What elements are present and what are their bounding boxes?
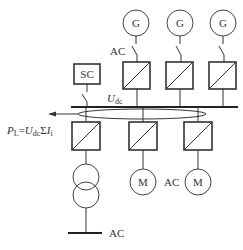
arrow-head-icon [48, 112, 56, 117]
generator-label: G [176, 17, 184, 29]
sc-label: SC [80, 68, 93, 80]
generator-label: G [132, 17, 140, 29]
udc-label: Udc [107, 92, 123, 106]
converter-gen-2 [166, 62, 193, 107]
motor-label: M [138, 176, 148, 188]
generator-3: G [210, 10, 236, 36]
transformer [73, 164, 99, 233]
converter-grid [72, 107, 100, 164]
generator-2: G [167, 10, 193, 36]
power-equation: PL=UdcΣIi [6, 124, 53, 138]
motor-1: M [130, 169, 156, 195]
dc-bus-diagram: G G G AC SC [0, 0, 243, 250]
supercapacitor: SC [74, 64, 100, 107]
ac-label-generator: AC [110, 45, 125, 57]
motor-label: M [193, 176, 203, 188]
motor-2: M [185, 169, 211, 195]
ac-label-grid: AC [109, 227, 124, 239]
generator-1: G [123, 10, 149, 36]
converter-motor-2 [184, 107, 212, 169]
generator-label: G [219, 17, 227, 29]
converter-gen-1 [123, 62, 150, 107]
ac-label-motor: AC [164, 176, 179, 188]
converter-gen-3 [209, 62, 236, 107]
generator-switches [132, 36, 224, 62]
current-loop [78, 109, 206, 119]
converter-motor-1 [129, 107, 157, 169]
